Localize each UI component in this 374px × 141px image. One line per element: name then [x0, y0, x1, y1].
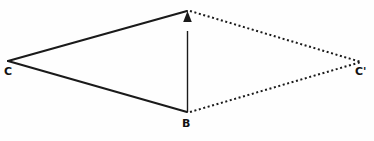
edge-c-to-b — [8, 61, 187, 112]
vertex-label-b: B — [182, 118, 190, 129]
vertex-label-c: C — [4, 66, 12, 77]
diagram-canvas: C B C' — [0, 0, 374, 141]
edge-b-to-cprime — [190, 62, 361, 112]
vertex-label-c-prime: C' — [355, 66, 366, 77]
edge-apex-to-cprime — [190, 11, 361, 62]
edge-c-to-apex — [8, 11, 187, 61]
